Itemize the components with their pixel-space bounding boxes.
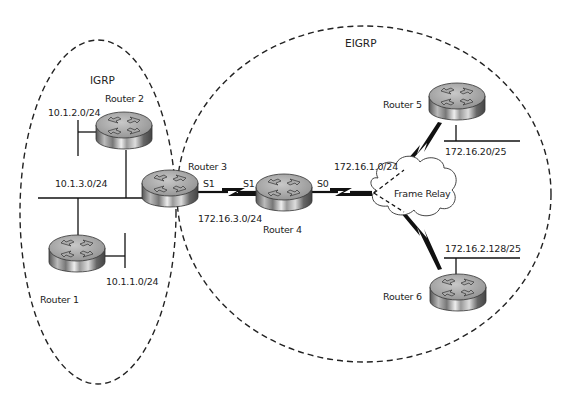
- interface-label-r4-s0: S0: [317, 178, 329, 189]
- network-label-172-16-3: 172.16.3.0/24: [198, 213, 262, 224]
- router-1-label: Router 1: [40, 294, 79, 305]
- router-6-label: Router 6: [383, 291, 422, 302]
- router-4-label: Router 4: [263, 224, 302, 235]
- router-1[interactable]: [49, 235, 105, 272]
- router-3[interactable]: [142, 170, 198, 207]
- network-label-10-1-2: 10.1.2.0/24: [48, 107, 101, 118]
- router-5-label: Router 5: [383, 99, 422, 110]
- network-label-10-1-1: 10.1.1.0/24: [106, 276, 159, 287]
- router-4[interactable]: [256, 174, 312, 211]
- eigrp-area-label: EIGRP: [345, 37, 377, 49]
- interface-label-r4-s1: S1: [243, 178, 255, 189]
- network-label-10-1-3: 10.1.3.0/24: [55, 178, 108, 189]
- frame-relay-label: Frame Relay: [394, 188, 451, 199]
- router-2-label: Router 2: [105, 93, 144, 104]
- network-label-172-16-1: 172.16.1.0/24: [334, 161, 398, 172]
- network-diagram: IGRP EIGRP: [0, 0, 565, 395]
- interface-label-r3-s1: S1: [203, 178, 215, 189]
- router-5[interactable]: [429, 83, 485, 120]
- igrp-area-label: IGRP: [90, 74, 115, 86]
- router-3-label: Router 3: [188, 161, 227, 172]
- router-2[interactable]: [96, 112, 152, 149]
- network-label-172-16-2-128: 172.16.2.128/25: [445, 243, 521, 254]
- network-label-172-16-20: 172.16.20/25: [445, 146, 506, 157]
- igrp-area-boundary: [20, 40, 176, 384]
- router-6[interactable]: [430, 274, 486, 311]
